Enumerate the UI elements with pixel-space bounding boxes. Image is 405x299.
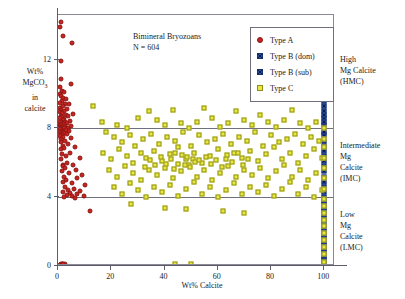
y-tick-label: 12 — [43, 54, 51, 63]
data-point — [221, 131, 226, 136]
zone-label-line: Mg — [340, 220, 363, 231]
data-point — [250, 123, 255, 128]
data-point — [242, 167, 247, 172]
data-point — [210, 116, 215, 121]
data-point — [111, 135, 116, 140]
data-point — [162, 166, 167, 171]
data-point — [63, 153, 68, 158]
data-point — [135, 188, 140, 193]
data-point — [317, 138, 322, 143]
legend: Type AType B (dom)Type B (sub)Type C — [250, 27, 334, 102]
data-point — [175, 145, 180, 150]
zone-label-line: Low — [340, 209, 363, 220]
data-point — [60, 262, 65, 264]
data-point — [298, 167, 303, 172]
data-point — [209, 161, 214, 166]
data-point — [62, 195, 67, 200]
data-point — [322, 119, 327, 124]
data-point — [231, 181, 236, 186]
data-point — [147, 158, 152, 163]
data-point — [226, 121, 231, 126]
data-point — [154, 117, 159, 122]
data-point — [158, 154, 163, 159]
data-point — [221, 208, 226, 213]
y-tick — [54, 127, 59, 128]
zone-label-line: Mg Calcite — [340, 65, 376, 76]
data-point — [234, 109, 239, 114]
data-point — [293, 131, 298, 136]
legend-marker-icon — [257, 53, 263, 59]
data-point — [306, 126, 311, 131]
data-point — [322, 126, 327, 131]
data-point — [106, 167, 111, 172]
x-tick — [164, 266, 165, 270]
data-point — [173, 138, 178, 143]
data-point — [282, 117, 287, 122]
data-point — [261, 143, 266, 148]
zone-label-lmc: LowMgCalcite(LMC) — [340, 209, 363, 253]
data-point — [202, 167, 207, 172]
data-point — [287, 150, 292, 155]
data-point — [189, 261, 194, 264]
data-point — [114, 174, 119, 179]
data-point — [151, 148, 156, 153]
data-point — [179, 153, 184, 158]
data-point — [173, 261, 178, 264]
y-tick-label: 8 — [47, 123, 51, 132]
legend-type-b-sub[interactable]: Type B (sub) — [257, 64, 328, 80]
data-point — [287, 179, 292, 184]
legend-type-b-dom[interactable]: Type B (dom) — [257, 48, 328, 64]
data-point — [266, 176, 271, 181]
data-point — [230, 159, 235, 164]
data-point — [215, 147, 220, 152]
chart-title-block: Bimineral Bryozoans N = 604 — [133, 31, 201, 53]
data-point — [135, 116, 140, 121]
data-point — [213, 136, 218, 141]
data-point — [271, 145, 276, 150]
data-point — [138, 150, 143, 155]
data-point — [237, 135, 242, 140]
data-point — [269, 133, 274, 138]
legend-label: Type C — [270, 84, 293, 93]
data-point — [322, 145, 327, 150]
data-point — [142, 165, 147, 170]
data-point — [151, 184, 156, 189]
data-point — [178, 169, 183, 174]
x-tick-label: 40 — [160, 272, 168, 281]
data-point — [79, 172, 84, 177]
data-point — [127, 181, 132, 186]
legend-marker-icon — [257, 37, 263, 43]
legend-type-a[interactable]: Type A — [257, 32, 328, 48]
data-point — [263, 152, 268, 157]
data-point — [274, 169, 279, 174]
data-point — [129, 202, 134, 207]
data-point — [81, 194, 86, 199]
data-point — [199, 191, 204, 196]
y-tick — [54, 196, 59, 197]
legend-marker-icon — [257, 85, 263, 91]
data-point — [189, 143, 194, 148]
y-axis-title-line-4: calcite — [25, 104, 46, 113]
data-point — [245, 138, 250, 143]
x-tick-label: 60 — [213, 272, 221, 281]
data-point — [223, 157, 228, 162]
data-point — [303, 153, 308, 158]
x-tick-label: 80 — [266, 272, 274, 281]
data-point — [247, 184, 252, 189]
data-point — [322, 245, 327, 250]
data-point — [82, 183, 87, 188]
data-point — [203, 154, 208, 159]
data-point — [274, 124, 279, 129]
data-point — [314, 171, 319, 176]
data-point — [290, 107, 295, 112]
data-point — [130, 160, 135, 165]
reference-line — [58, 197, 333, 198]
zone-label-line: Calcite — [340, 231, 363, 242]
data-point — [59, 76, 64, 81]
data-point — [197, 133, 202, 138]
chart-title: Bimineral Bryozoans — [133, 32, 201, 41]
data-point — [133, 143, 138, 148]
legend-type-c[interactable]: Type C — [257, 80, 328, 96]
data-point — [279, 186, 284, 191]
data-point — [239, 191, 244, 196]
